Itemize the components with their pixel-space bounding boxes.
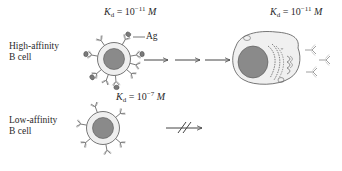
high-affinity-b-cell-icon [83,30,145,90]
diagram-canvas [0,0,342,171]
kd-unit: M [154,91,165,102]
low-affinity-label: Low-affinity B cell [9,115,57,137]
label-line-2: B cell [9,52,59,63]
kd-exponent: −11 [301,5,312,13]
kd-symbol: K [104,6,111,17]
blocked-arrow-icon [166,122,202,133]
low-affinity-kd: Kd = 10−7 M [116,90,165,104]
kd-equals: = 10 [114,6,135,17]
kd-symbol: K [116,91,123,102]
antigen-label: Ag [146,31,158,42]
kd-unit: M [312,6,323,17]
label-line-1: Low-affinity [9,115,57,126]
label-line-2: B cell [9,126,57,137]
label-line-1: High-affinity [9,41,59,52]
low-affinity-b-cell-icon [76,102,126,155]
kd-symbol: K [270,6,277,17]
kd-equals: = 10 [126,91,147,102]
kd-equals: = 10 [280,6,301,17]
plasma-cell-icon [233,32,300,85]
high-affinity-kd: Kd = 10−11 M [104,5,156,19]
plasma-cell-kd: Kd = 10−11 M [270,5,322,19]
kd-unit: M [146,6,157,17]
high-affinity-label: High-affinity B cell [9,41,59,63]
kd-exponent: −11 [135,5,146,13]
secreted-antibody-icon [305,45,330,78]
